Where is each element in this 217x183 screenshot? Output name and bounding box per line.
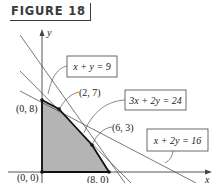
x-axis-label: x	[204, 174, 210, 183]
equation-label: 3x + 2y = 24	[128, 95, 181, 106]
y-axis-label: y	[46, 27, 52, 38]
diagram-canvas: x + y = 9 3x + 2y = 24 x + 2y = 16 (0, 0…	[0, 0, 217, 183]
equation-box-x-2y-16: x + 2y = 16	[147, 129, 208, 151]
vertex-dot	[40, 170, 44, 174]
vertex-label-8-0: (8, 0)	[87, 174, 109, 183]
vertex-dot	[40, 98, 44, 102]
equation-label: x + 2y = 16	[153, 135, 201, 146]
vertex-label-2-7: (2, 7)	[79, 87, 101, 99]
equation-box-x-y-9: x + y = 9	[67, 56, 117, 77]
equation-label: x + y = 9	[72, 61, 110, 72]
vertex-label-6-3: (6, 3)	[112, 122, 134, 134]
leader-x-y-9	[48, 66, 67, 94]
leader-2-7	[60, 92, 79, 108]
equation-box-3x-2y-24: 3x + 2y = 24	[125, 90, 186, 110]
vertex-label-0-0: (0, 0)	[17, 172, 39, 183]
leader-x-2y-16	[165, 151, 173, 163]
vertex-label-0-8: (0, 8)	[16, 103, 38, 115]
leader-6-3	[93, 127, 112, 143]
y-axis-arrow-icon	[40, 29, 45, 36]
vertex-dot	[90, 143, 94, 147]
